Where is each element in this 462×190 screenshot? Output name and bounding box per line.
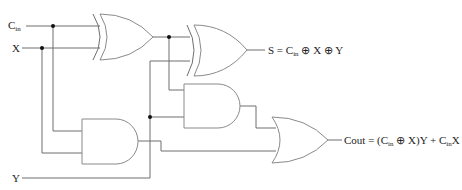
circuit-svg [0,0,462,190]
output-label-cout: Cout = (Cin ⊕ X)Y + CinX [344,135,460,148]
xor-gate-1 [93,14,153,60]
wire-and2-out [138,141,276,151]
junction-xor1 [167,35,171,39]
and-gate-2 [82,119,138,164]
input-label-cin: Cin [8,20,21,33]
wire-xor1-out [153,37,190,90]
or-gate [272,117,328,163]
xor-gate-2 [187,25,247,76]
junction-y [148,115,152,119]
input-label-y: Y [12,173,20,184]
junction-x [40,46,44,50]
output-label-sum: S = Cin ⊕ X ⊕ Y [268,45,343,58]
wire-and1-out [240,106,276,128]
and-gate-1 [184,84,240,128]
input-label-x: X [12,43,20,54]
full-adder-diagram: Cin X Y S = Cin ⊕ X ⊕ Y Cout = (Cin ⊕ X)… [0,0,462,190]
junction-cin [51,24,55,28]
wire-cin [26,26,100,131]
